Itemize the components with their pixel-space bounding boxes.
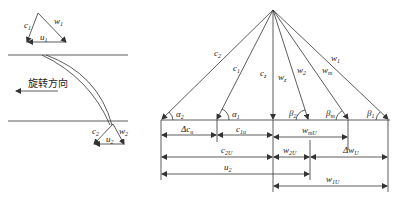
c1-label: c1 [24,20,31,31]
rotation-direction-label: 旋转方向 [28,77,68,89]
alpha1-arc [222,109,229,120]
c1u-label: c1u [236,124,246,135]
w2u-label: w2U [283,145,297,156]
betam-arc [336,111,342,120]
w1u-label: w1U [326,174,340,185]
betam-label: βm [325,108,335,119]
inlet-velocity-triangle: c1 w1 u1 [24,13,66,43]
wm-vector [273,10,348,119]
alpha1-label: α1 [232,109,240,120]
w1-label: w1 [54,16,63,27]
u2-label: u2 [106,134,114,145]
c2-vector-main [162,10,273,119]
delta-cu-label: Δcu [180,124,193,135]
beta1-label: β1 [366,108,374,119]
combined-velocity-diagram: c2 c1 cz wz w2 wm w1 α2 α1 β2 βm β1 Δcu … [161,10,390,192]
cz-label: cz [260,68,267,79]
outlet-velocity-triangle: c2 w2 u2 [92,124,128,145]
wm-label: wm [322,65,333,76]
u1-label: u1 [40,32,48,43]
w2-label: w2 [119,126,128,137]
beta2-label: β2 [288,108,296,119]
alpha2-label: α2 [176,109,184,120]
alpha2-arc [169,112,173,120]
blade-curve-1 [42,55,110,125]
w2-main-label: w2 [297,65,306,76]
velocity-triangle-diagram: c1 w1 u1 旋转方向 c2 w2 u2 c2 c1 cz wz w2 wm… [0,0,396,199]
beta1-arc [376,112,380,120]
wmu-label: wmU [302,125,317,136]
blade-curve-2 [46,55,112,125]
u2-label: u2 [224,162,232,173]
delta-wu-label: ΔwU [342,145,359,156]
blade-passage: 旋转方向 [8,55,128,125]
c2-label: c2 [92,126,99,137]
c1-vector-main [217,10,273,119]
c2-main-label: c2 [214,48,221,59]
beta2-arc [296,110,305,120]
wz-label: wz [278,72,287,83]
c1-main-label: c1 [233,63,240,74]
w1-main-label: w1 [331,53,340,64]
c2u-label: c2U [221,145,233,156]
